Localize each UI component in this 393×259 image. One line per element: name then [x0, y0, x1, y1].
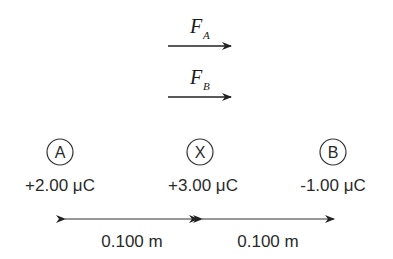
- force-vector-b: F B: [168, 66, 231, 97]
- force-vector-a: F A: [168, 15, 231, 46]
- force-b-symbol: F: [189, 66, 203, 88]
- distance-a-x-label: 0.100 m: [101, 232, 162, 251]
- distance-x-b: 0.100 m: [202, 219, 334, 251]
- force-b-subscript: B: [203, 80, 210, 92]
- force-a-symbol: F: [189, 15, 203, 37]
- charge-x-value: +3.00 μC: [168, 176, 238, 195]
- charge-b: B -1.00 μC: [300, 139, 366, 195]
- charge-x-label: X: [195, 144, 206, 161]
- charge-a-value: +2.00 μC: [25, 176, 95, 195]
- distance-x-b-label: 0.100 m: [237, 232, 298, 251]
- charge-b-value: -1.00 μC: [300, 176, 366, 195]
- charge-diagram: F A F B A +2.00 μC X +3.00 μC B -1.00 μC…: [0, 0, 393, 259]
- charge-a-label: A: [55, 144, 66, 161]
- distance-a-x: 0.100 m: [65, 219, 198, 251]
- force-a-subscript: A: [202, 29, 210, 41]
- charge-x: X +3.00 μC: [168, 139, 238, 195]
- charge-a: A +2.00 μC: [25, 139, 95, 195]
- charge-b-label: B: [328, 144, 339, 161]
